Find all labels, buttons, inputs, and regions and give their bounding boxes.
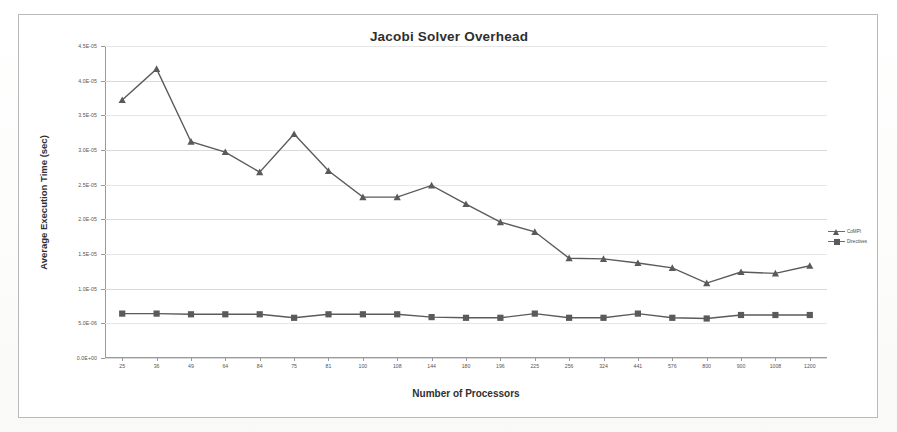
x-tick-mark: [604, 358, 605, 361]
legend-label: Directives: [847, 239, 867, 244]
x-tick-mark: [638, 358, 639, 361]
series-marker: [738, 312, 744, 318]
series-marker: [497, 315, 503, 321]
series-marker: [532, 311, 538, 317]
series-marker: [462, 201, 469, 208]
x-tick-label: 196: [496, 363, 505, 369]
series-marker: [428, 182, 435, 189]
x-tick-label: 25: [119, 363, 125, 369]
y-tick-label: 1.0E-05: [78, 286, 97, 292]
x-tick-label: 49: [188, 363, 194, 369]
series-marker: [153, 65, 160, 72]
x-tick-label: 324: [599, 363, 608, 369]
series-marker: [291, 315, 297, 321]
x-tick-label: 900: [737, 363, 746, 369]
x-tick-mark: [500, 358, 501, 361]
series-marker: [187, 138, 194, 145]
x-tick-mark: [810, 358, 811, 361]
series-marker: [635, 311, 641, 317]
series-marker: [429, 314, 435, 320]
x-tick-label: 576: [668, 363, 677, 369]
x-axis-title: Number of Processors: [105, 388, 827, 399]
series-marker: [704, 315, 710, 321]
series-marker: [566, 315, 572, 321]
series-marker: [772, 312, 778, 318]
series-marker: [222, 311, 228, 317]
x-tick-label: 64: [222, 363, 228, 369]
series-marker: [497, 219, 504, 226]
chart-title: Jacobi Solver Overhead: [19, 29, 879, 44]
series-marker: [257, 311, 263, 317]
series-marker: [669, 315, 675, 321]
plot-area: 0.0E+005.0E-061.0E-051.5E-052.0E-052.5E-…: [105, 46, 827, 358]
y-tick-label: 2.0E-05: [78, 216, 97, 222]
series-marker: [325, 311, 331, 317]
x-tick-label: 84: [257, 363, 263, 369]
x-tick-label: 225: [530, 363, 539, 369]
legend-item-compi[interactable]: CoMPI: [828, 228, 867, 235]
x-tick-label: 81: [326, 363, 332, 369]
x-tick-mark: [260, 358, 261, 361]
series-marker: [360, 311, 366, 317]
series-marker: [154, 311, 160, 317]
x-tick-label: 100: [359, 363, 368, 369]
x-tick-mark: [432, 358, 433, 361]
series-marker: [394, 311, 400, 317]
series-marker: [463, 315, 469, 321]
y-axis-title: Average Execution Time (sec): [36, 46, 50, 358]
x-tick-mark: [466, 358, 467, 361]
x-tick-label: 144: [427, 363, 436, 369]
x-tick-mark: [191, 358, 192, 361]
y-tick-label: 5.0E-06: [78, 320, 97, 326]
x-tick-mark: [294, 358, 295, 361]
legend-label: CoMPI: [847, 229, 861, 234]
x-tick-mark: [741, 358, 742, 361]
x-tick-label: 1008: [770, 363, 782, 369]
x-tick-label: 441: [634, 363, 643, 369]
y-tick-label: 0.0E+00: [77, 355, 97, 361]
y-axis-title-label: Average Execution Time (sec): [38, 135, 49, 270]
legend-swatch-icon: [828, 228, 845, 235]
legend-item-directives[interactable]: Directives: [828, 238, 867, 245]
series-marker: [806, 262, 813, 269]
x-tick-mark: [672, 358, 673, 361]
x-tick-mark: [775, 358, 776, 361]
x-tick-label: 180: [462, 363, 471, 369]
x-tick-mark: [707, 358, 708, 361]
y-tick-label: 4.5E-05: [78, 43, 97, 49]
series-marker: [600, 315, 606, 321]
legend-swatch-icon: [828, 238, 845, 245]
x-tick-mark: [363, 358, 364, 361]
y-tick-label: 3.0E-05: [78, 147, 97, 153]
y-tick-label: 1.5E-05: [78, 251, 97, 257]
y-tick-label: 2.5E-05: [78, 182, 97, 188]
x-tick-mark: [157, 358, 158, 361]
x-tick-label: 108: [393, 363, 402, 369]
x-tick-label: 75: [291, 363, 297, 369]
series-marker: [119, 311, 125, 317]
y-tick-label: 3.5E-05: [78, 112, 97, 118]
series-marker: [807, 312, 813, 318]
x-tick-label: 800: [702, 363, 711, 369]
series-line: [122, 69, 810, 283]
x-tick-mark: [569, 358, 570, 361]
x-tick-mark: [328, 358, 329, 361]
x-tick-mark: [225, 358, 226, 361]
chart-legend: CoMPIDirectives: [828, 228, 867, 245]
series-marker: [188, 311, 194, 317]
y-tick-mark: [101, 358, 105, 359]
series-layer: [105, 46, 827, 358]
y-tick-label: 4.0E-05: [78, 78, 97, 84]
x-tick-label: 1200: [804, 363, 816, 369]
x-tick-label: 36: [154, 363, 160, 369]
x-tick-mark: [397, 358, 398, 361]
x-tick-mark: [122, 358, 123, 361]
x-tick-label: 256: [565, 363, 574, 369]
x-tick-mark: [535, 358, 536, 361]
series-marker: [291, 131, 298, 138]
